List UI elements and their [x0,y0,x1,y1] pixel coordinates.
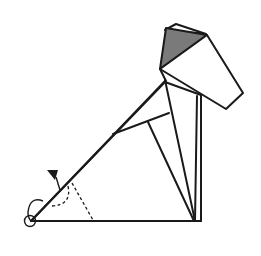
fold-direction-arrow-shaft [56,177,60,190]
body [31,80,201,221]
origami-diagram [0,0,261,256]
body-outer-face [31,82,201,221]
